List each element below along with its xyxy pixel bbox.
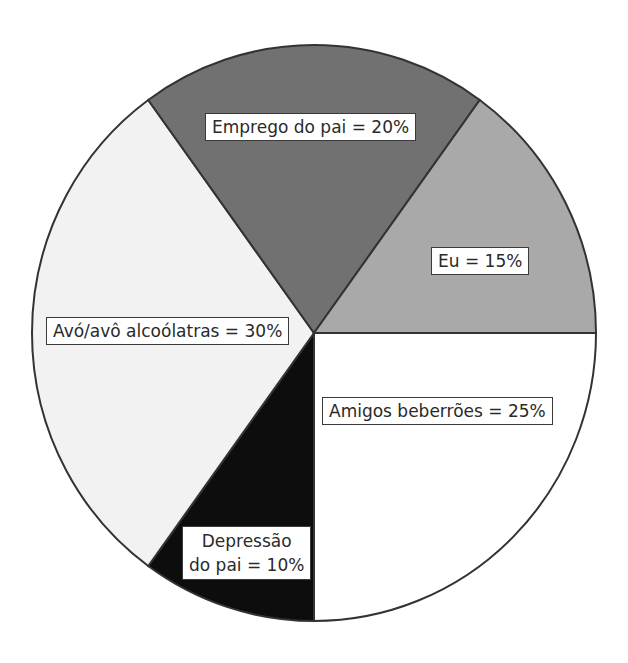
label-avo-avo-alcoolatras: Avó/avô alcoólatras = 30% — [46, 317, 289, 345]
label-depressao-do-pai: Depressão do pai = 10% — [182, 526, 311, 580]
label-eu: Eu = 15% — [431, 247, 529, 275]
label-depressao-line2: do pai = 10% — [189, 553, 304, 577]
label-emprego-do-pai: Emprego do pai = 20% — [205, 113, 416, 141]
label-depressao-line1: Depressão — [189, 529, 304, 553]
label-amigos-beberroes: Amigos beberrões = 25% — [322, 397, 553, 425]
pie-slice-amigos-beberroes — [314, 333, 596, 621]
